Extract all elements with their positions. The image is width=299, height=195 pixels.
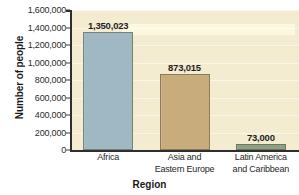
bar bbox=[83, 32, 133, 150]
y-axis-tick-label: 1,600,000 bbox=[28, 5, 66, 15]
category-label-line: Eastern Europe bbox=[142, 164, 228, 176]
y-axis-tick-mark bbox=[66, 62, 70, 63]
category-label-line: and Caribbean bbox=[218, 164, 299, 176]
bar-value-label: 873,015 bbox=[140, 62, 230, 73]
bar bbox=[160, 74, 210, 150]
y-axis-tick-mark bbox=[66, 115, 70, 116]
x-axis-category-labels: AfricaAsia andEastern EuropeLatin Americ… bbox=[70, 152, 299, 180]
y-axis-tick-mark bbox=[66, 45, 70, 46]
y-axis-tick-label: 600,000 bbox=[35, 93, 66, 103]
y-axis-tick-label: 1,400,000 bbox=[28, 23, 66, 33]
x-axis-category-label: Asia andEastern Europe bbox=[142, 152, 228, 175]
x-axis-category-label: Africa bbox=[65, 152, 151, 164]
y-axis-tick-label: 1,000,000 bbox=[28, 58, 66, 68]
category-label-line: Latin America bbox=[235, 152, 287, 162]
y-axis-tick-label: 200,000 bbox=[35, 128, 66, 138]
y-axis-tick-mark bbox=[66, 80, 70, 81]
y-axis-tick-mark bbox=[66, 150, 70, 151]
y-axis-tick-label: 800,000 bbox=[35, 75, 66, 85]
gridline bbox=[70, 10, 299, 11]
plot-area bbox=[70, 10, 299, 150]
bar-value-label: 73,000 bbox=[216, 132, 299, 143]
y-axis-tick-labels: 1,600,0001,400,0001,200,0001,000,000800,… bbox=[14, 8, 66, 151]
bar-chart: Number of people 1,600,0001,400,0001,200… bbox=[0, 0, 299, 195]
y-axis-line bbox=[70, 10, 72, 151]
y-axis-tick-mark bbox=[66, 97, 70, 98]
y-axis-tick-mark bbox=[66, 132, 70, 133]
bar-value-label: 1,350,023 bbox=[63, 20, 153, 31]
y-axis-tick-mark bbox=[66, 10, 70, 11]
x-axis-title: Region bbox=[0, 179, 299, 190]
category-label-line: Africa bbox=[97, 152, 119, 162]
category-label-line: Asia and bbox=[168, 152, 201, 162]
x-axis-category-label: Latin Americaand Caribbean bbox=[218, 152, 299, 175]
y-axis-tick-label: 400,000 bbox=[35, 110, 66, 120]
y-axis-tick-label: 1,200,000 bbox=[28, 40, 66, 50]
